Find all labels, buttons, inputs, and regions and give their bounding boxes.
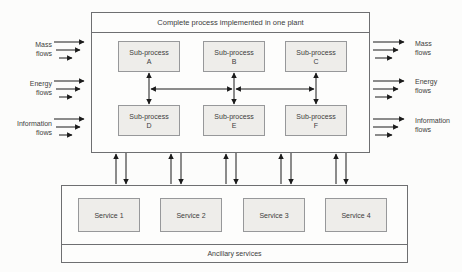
service-1-box: Service 1 <box>78 198 140 232</box>
subprocess-id: E <box>232 121 237 130</box>
mass-output-arrows <box>373 42 404 58</box>
subprocess-name: Sub-process <box>214 112 253 121</box>
energy-flows-input-label: Energy flows <box>6 79 52 97</box>
subprocess-name: Sub-process <box>129 48 168 57</box>
flow-label-line2: flows <box>415 125 461 134</box>
flow-label-line1: Information <box>6 119 52 128</box>
subprocess-name: Sub-process <box>214 48 253 57</box>
subprocess-name: Sub-process <box>296 48 335 57</box>
ancillary-services-label: Ancillary services <box>62 244 407 262</box>
information-flows-output-label: Information flows <box>415 116 461 134</box>
plant-service-link-arrows <box>116 153 346 184</box>
subprocess-f-box: Sub-process F <box>285 105 347 136</box>
information-output-arrows <box>373 119 404 135</box>
flow-label-line1: Mass <box>6 40 52 49</box>
energy-flows-output-label: Energy flows <box>415 77 461 95</box>
mass-flows-output-label: Mass flows <box>415 39 461 57</box>
flow-label-line2: flows <box>6 49 52 58</box>
subprocess-id: F <box>314 121 318 130</box>
flow-label-line1: Energy <box>415 77 461 86</box>
subprocess-id: A <box>147 57 152 66</box>
energy-input-arrows <box>54 81 84 97</box>
flow-label-line1: Energy <box>6 79 52 88</box>
flow-label-line2: flows <box>6 88 52 97</box>
information-flows-input-label: Information flows <box>6 119 52 137</box>
information-input-arrows <box>54 119 84 135</box>
flow-label-line2: flows <box>415 86 461 95</box>
process-diagram: Mass flows Energy flows Information flow… <box>0 0 462 272</box>
flow-label-line2: flows <box>6 128 52 137</box>
subprocess-id: C <box>313 57 318 66</box>
subprocess-id: B <box>232 57 237 66</box>
service-2-box: Service 2 <box>160 198 222 232</box>
subprocess-b-box: Sub-process B <box>203 41 265 72</box>
subprocess-name: Sub-process <box>296 112 335 121</box>
plant-title: Complete process implemented in one plan… <box>92 13 369 33</box>
mass-input-arrows <box>54 42 84 58</box>
subprocess-d-box: Sub-process D <box>118 105 180 136</box>
service-3-box: Service 3 <box>243 198 305 232</box>
subprocess-a-box: Sub-process A <box>118 41 180 72</box>
subprocess-c-box: Sub-process C <box>285 41 347 72</box>
mass-flows-input-label: Mass flows <box>6 40 52 58</box>
service-4-box: Service 4 <box>325 198 387 232</box>
energy-output-arrows <box>373 81 404 97</box>
subprocess-name: Sub-process <box>129 112 168 121</box>
subprocess-id: D <box>146 121 151 130</box>
flow-label-line1: Information <box>415 116 461 125</box>
flow-label-line2: flows <box>415 48 461 57</box>
flow-label-line1: Mass <box>415 39 461 48</box>
subprocess-e-box: Sub-process E <box>203 105 265 136</box>
